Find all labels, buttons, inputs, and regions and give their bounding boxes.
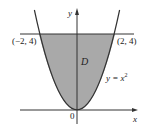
y-axis-arrow-icon [75, 8, 79, 15]
curve-label-base: y = x [106, 73, 125, 83]
x-axis-arrow-icon [132, 108, 138, 112]
point-label-right: (2, 4) [117, 37, 137, 46]
origin-label: 0 [70, 112, 75, 121]
curve-label: y = x2 [106, 72, 128, 83]
region-label: D [81, 57, 88, 67]
x-axis-label: x [133, 115, 137, 124]
point-label-left: (−2, 4) [12, 37, 37, 46]
y-axis-label: y [68, 9, 72, 18]
curve-label-exponent: 2 [125, 72, 128, 78]
